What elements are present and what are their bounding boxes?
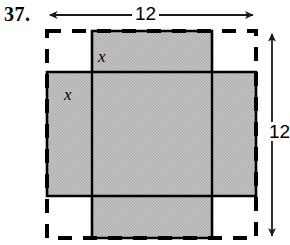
box-net-figure: x x (0, 0, 290, 245)
figure-page: 37. (0, 0, 290, 245)
dimension-label-right: 12 (266, 122, 290, 141)
corner-label-x-left: x (63, 85, 72, 104)
dimension-label-top: 12 (132, 4, 159, 23)
corner-label-x-top: x (97, 47, 106, 66)
net-horizontal-bar (47, 72, 256, 196)
shaded-net-region (47, 31, 256, 238)
